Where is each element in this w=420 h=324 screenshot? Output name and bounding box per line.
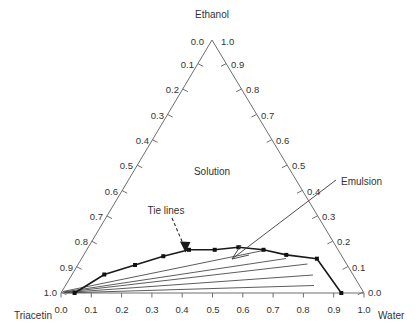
apex-label-ethanol: Ethanol — [195, 9, 229, 20]
tie-lines-group — [63, 250, 314, 293]
bottom-axis-tick-label: 0.5 — [206, 304, 219, 315]
right-axis-tick-label-end: 0.0 — [368, 287, 381, 298]
bottom-axis-tick-label: 1.0 — [357, 304, 370, 315]
right-tick-6 — [297, 191, 302, 194]
left-axis-tick-label-end: 1.0 — [44, 287, 57, 298]
binodal-point — [187, 248, 191, 252]
left-axis-tick-label: 0.1 — [181, 59, 194, 70]
tie-lines-label: Tie lines — [148, 205, 185, 216]
left-tick-7 — [107, 216, 112, 219]
right-tick-2 — [236, 89, 241, 92]
right-tick-9 — [343, 267, 348, 270]
right-tick-3 — [251, 114, 256, 117]
left-axis-tick-label: 0.3 — [151, 110, 164, 121]
right-axis-tick-label: 0.7 — [261, 110, 274, 121]
bottom-axis-tick-label: 0.8 — [296, 304, 309, 315]
binodal-point — [284, 253, 288, 257]
left-tick-5 — [137, 165, 142, 168]
left-tick-3 — [168, 114, 173, 117]
right-tick-5 — [282, 165, 287, 168]
binodal-point — [262, 248, 266, 252]
left-tick-4 — [152, 140, 157, 143]
right-tick-1 — [221, 64, 226, 67]
bottom-axis-tick-label: 0.3 — [145, 304, 158, 315]
binodal-point — [133, 263, 137, 267]
right-tick-4 — [267, 140, 272, 143]
left-tick-1 — [198, 64, 203, 67]
bottom-axis-tick-label: 0.2 — [115, 304, 128, 315]
apex-right-value: 1.0 — [221, 36, 234, 47]
left-axis-tick-label: 0.5 — [120, 160, 133, 171]
right-axis-tick-label: 0.2 — [337, 236, 350, 247]
bottom-axis-tick-label: 0.7 — [266, 304, 279, 315]
binodal-point — [161, 254, 165, 258]
right-axis-tick-label: 0.5 — [292, 160, 305, 171]
left-axis-line — [61, 40, 212, 293]
bottom-axis-ticks — [61, 293, 364, 298]
tie-lines-leader-group — [172, 218, 191, 253]
right-tick-7 — [312, 216, 317, 219]
left-tick-2 — [183, 89, 188, 92]
left-tick-6 — [122, 191, 127, 194]
left-axis-tick-label: 0.6 — [105, 186, 118, 197]
right-axis-tick-label: 0.9 — [231, 59, 244, 70]
apex-left-value: 0.0 — [191, 36, 204, 47]
binodal-point — [102, 273, 106, 277]
binodal-point — [315, 257, 319, 261]
ternary-diagram-svg: Ethanol 0.0 1.0 Triacetin Water 0.1 0.2 … — [0, 0, 420, 324]
left-axis-tick-label: 0.2 — [166, 84, 179, 95]
right-axis-tick-label: 0.6 — [276, 135, 289, 146]
solution-region-label: Solution — [194, 166, 230, 177]
right-axis-tick-label: 0.3 — [322, 211, 335, 222]
binodal-point — [213, 248, 217, 252]
bottom-axis-tick-label: 0.0 — [54, 304, 67, 315]
left-axis-tick-label: 0.7 — [90, 211, 103, 222]
bottom-left-label-triacetin: Triacetin — [14, 310, 52, 321]
bottom-axis-tick-label: 0.6 — [236, 304, 249, 315]
left-axis-tick-label: 0.8 — [75, 236, 88, 247]
bottom-axis-tick-label: 0.1 — [84, 304, 97, 315]
right-axis-tick-label: 0.8 — [246, 84, 259, 95]
bottom-axis-tick-label: 0.9 — [327, 304, 340, 315]
left-axis-tick-label: 0.9 — [60, 262, 73, 273]
right-tick-8 — [327, 241, 332, 244]
right-axis-tick-label: 0.1 — [352, 262, 365, 273]
emulsion-region-label: Emulsion — [341, 176, 382, 187]
left-tick-9 — [76, 267, 81, 270]
bottom-axis-tick-label: 0.4 — [175, 304, 188, 315]
right-axis-tick-label: 0.4 — [307, 186, 320, 197]
left-tick-8 — [92, 241, 97, 244]
binodal-point — [73, 291, 77, 295]
binodal-point — [339, 291, 343, 295]
ternary-phase-diagram: Ethanol 0.0 1.0 Triacetin Water 0.1 0.2 … — [0, 0, 420, 324]
left-axis-tick-label: 0.4 — [136, 135, 149, 146]
tie-line-5 — [66, 286, 314, 293]
left-axis-ticks — [61, 64, 203, 295]
bottom-right-label-water: Water — [378, 310, 405, 321]
